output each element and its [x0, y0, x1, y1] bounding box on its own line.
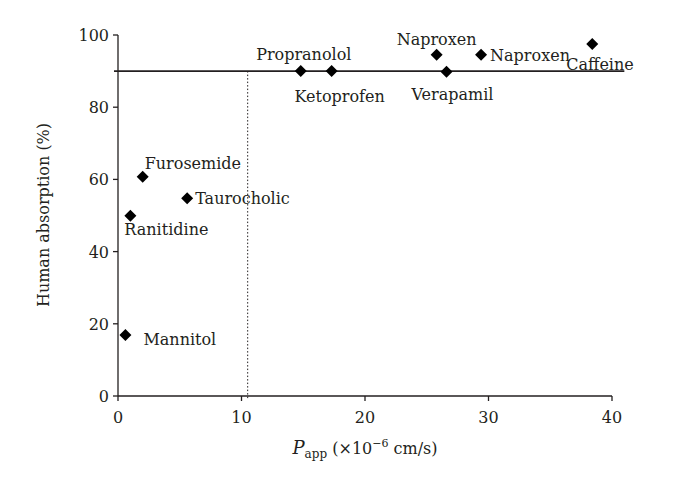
- diamond-marker: [295, 65, 307, 77]
- diamond-marker: [441, 66, 453, 78]
- x-tick-label: 40: [602, 408, 622, 427]
- point-label: Ranitidine: [124, 220, 208, 239]
- y-tick-label: 100: [78, 26, 109, 45]
- x-axis-title-main: P: [291, 437, 305, 458]
- diamond-marker: [431, 49, 443, 61]
- y-tick-label: 60: [89, 170, 109, 189]
- point-label: Propranolol: [256, 45, 351, 64]
- point-label: Naproxen: [397, 30, 477, 49]
- x-axis-title-sup: −6: [372, 437, 388, 450]
- y-tick-label: 40: [89, 243, 109, 262]
- point-label: Naproxen: [490, 46, 570, 65]
- point-label: Taurocholic: [195, 189, 290, 208]
- scatter-chart: 020406080100010203040 PropranololKetopro…: [0, 0, 673, 488]
- y-tick-label: 0: [99, 387, 109, 406]
- x-axis-title-unit: cm/s): [388, 439, 437, 458]
- diamond-marker: [586, 38, 598, 50]
- diamond-marker: [475, 49, 487, 61]
- data-points: [119, 38, 598, 341]
- point-label: Furosemide: [145, 154, 241, 173]
- point-label: Ketoprofen: [295, 87, 385, 106]
- point-label: Mannitol: [143, 330, 216, 349]
- y-tick-label: 20: [89, 315, 109, 334]
- x-tick-label: 30: [478, 408, 498, 427]
- diamond-marker: [119, 329, 131, 341]
- point-label: Caffeine: [566, 55, 634, 74]
- y-axis-title: Human absorption (%): [34, 123, 53, 307]
- diamond-marker: [326, 65, 338, 77]
- x-tick-label: 20: [355, 408, 375, 427]
- x-axis-title-rest: (×10: [327, 439, 372, 458]
- point-labels: PropranololKetoprofenNaproxenNaproxenVer…: [124, 30, 633, 349]
- diamond-marker: [181, 192, 193, 204]
- x-axis-title-sub: app: [305, 447, 328, 461]
- y-tick-label: 80: [89, 98, 109, 117]
- x-tick-label: 10: [231, 408, 251, 427]
- point-label: Verapamil: [411, 85, 494, 104]
- x-tick-label: 0: [113, 408, 123, 427]
- x-axis-title: Papp (×10−6 cm/s): [291, 437, 437, 461]
